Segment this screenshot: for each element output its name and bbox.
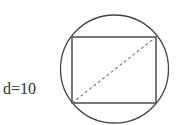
inscribed-rectangle-diagram	[0, 0, 178, 125]
diagonal-dashed-line	[72, 37, 156, 103]
circumscribed-circle	[61, 15, 169, 123]
